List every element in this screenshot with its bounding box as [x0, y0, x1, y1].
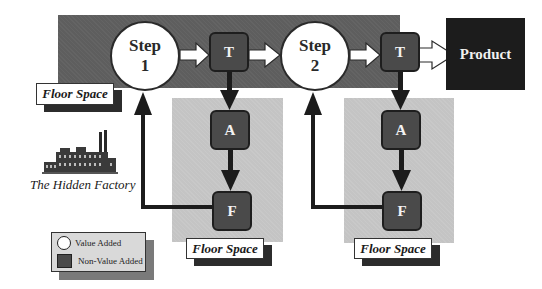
transport-box-1: T [209, 32, 249, 72]
hollow-arrow-step2-to-t2 [350, 43, 380, 67]
non-value-added-square-icon [57, 254, 72, 268]
fix-box-1: F [212, 191, 252, 231]
floor-space-label-text: Floor Space [354, 238, 432, 259]
rework-arrow-f2-to-step2 [313, 112, 382, 207]
step-2-label-line2: 2 [311, 56, 320, 76]
approval-box-2: A [381, 110, 421, 150]
step-1-circle: Step 1 [110, 21, 180, 91]
factory-icon [42, 130, 118, 176]
rework-arrowhead-step1 [134, 92, 152, 115]
legend-label-non-value-added: Non-Value Added [78, 256, 143, 266]
floor-space-label-hidden-1: Floor Space [186, 238, 272, 267]
step-2-label-line1: Step [299, 36, 331, 56]
legend-label-value-added: Value Added [75, 238, 121, 248]
rework-arrow-f1-to-step1 [143, 112, 212, 207]
arrow-a2-to-f2 [392, 150, 411, 191]
fix-box-2: F [382, 191, 422, 231]
floor-space-label-hidden-2: Floor Space [354, 238, 440, 267]
rework-arrowhead-step2 [304, 92, 322, 115]
arrow-a1-to-f1 [221, 150, 240, 191]
step-1-label-line1: Step [129, 36, 161, 56]
product-box: Product [446, 18, 525, 90]
hollow-arrow-step1-to-t1 [180, 43, 209, 67]
legend-item-value-added: Value Added [57, 236, 121, 250]
floor-space-label-main: Floor Space [36, 83, 122, 112]
hollow-arrow-t1-to-step2 [249, 43, 280, 67]
legend-item-non-value-added: Non-Value Added [57, 254, 143, 268]
legend: Value Added Non-Value Added [51, 232, 146, 272]
floor-space-label-text: Floor Space [36, 83, 114, 105]
value-added-circle-icon [57, 236, 71, 250]
floor-space-label-text: Floor Space [186, 238, 264, 259]
factory-caption: The Hidden Factory [30, 177, 135, 193]
arrow-t1-to-a1 [220, 72, 239, 110]
transport-box-2: T [380, 32, 420, 72]
approval-box-1: A [210, 110, 250, 150]
step-1-label-line2: 1 [141, 56, 150, 76]
arrow-t2-to-a2 [391, 72, 410, 110]
step-2-circle: Step 2 [280, 21, 350, 91]
